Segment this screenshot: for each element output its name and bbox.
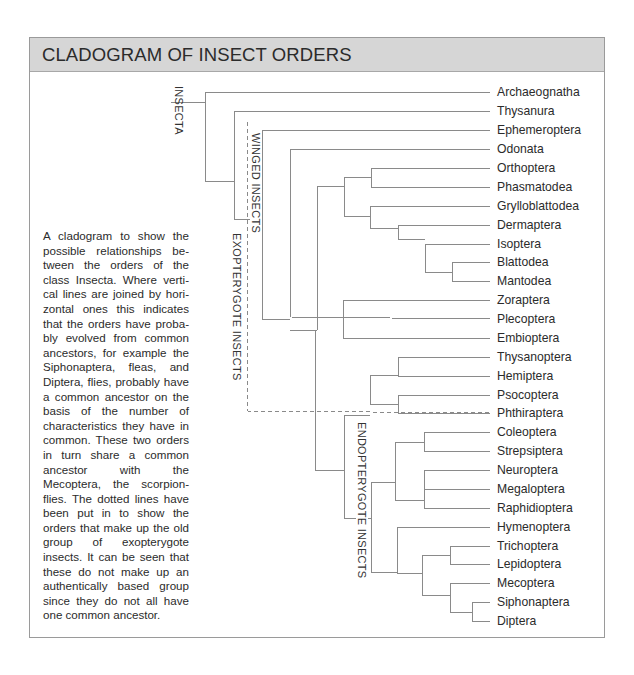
taxon-label: Odonata	[497, 142, 544, 156]
taxon-label: Mantodea	[497, 274, 551, 288]
taxon-label: Plecoptera	[497, 312, 555, 326]
taxon-label: Lepidoptera	[497, 557, 561, 571]
taxon-label: Isoptera	[497, 237, 541, 251]
taxon-label: Blattodea	[497, 255, 549, 269]
branch-line	[290, 317, 490, 319]
group-label-endopterygote-insects: ENDOPTERYGOTE INSECTS	[356, 422, 368, 578]
taxon-label: Siphonaptera	[497, 595, 570, 609]
taxon-label: Ephemeroptera	[497, 123, 581, 137]
taxon-label: Coleoptera	[497, 425, 557, 439]
taxon-label: Strepsiptera	[497, 444, 563, 458]
group-label-winged-insects: WINGED INSECTS	[250, 132, 262, 234]
taxon-label: Mecoptera	[497, 576, 555, 590]
taxon-label: Phasmatodea	[497, 180, 572, 194]
taxon-label: Orthoptera	[497, 161, 555, 175]
taxon-label: Raphidioptera	[497, 501, 573, 515]
group-label-exopterygote-insects: EXOPTERYGOTE INSECTS	[231, 233, 243, 381]
taxon-label: Embioptera	[497, 331, 559, 345]
taxon-label: Trichoptera	[497, 539, 558, 553]
taxon-label: Phthiraptera	[497, 406, 563, 420]
taxon-label: Hymenoptera	[497, 520, 570, 534]
taxon-label: Neuroptera	[497, 463, 558, 477]
taxon-label: Zoraptera	[497, 293, 550, 307]
taxon-label: Hemiptera	[497, 369, 553, 383]
group-label-insecta: INSECTA	[173, 86, 185, 135]
taxon-label: Thysanoptera	[497, 350, 572, 364]
taxon-label: Psocoptera	[497, 388, 559, 402]
taxon-label: Archaeognatha	[497, 85, 580, 99]
taxon-label: Megaloptera	[497, 482, 565, 496]
taxon-label: Diptera	[497, 614, 536, 628]
taxon-label: Grylloblattodea	[497, 199, 579, 213]
taxon-label: Dermaptera	[497, 218, 561, 232]
exopterygote-dotted-line	[247, 411, 490, 413]
taxon-label: Thysanura	[497, 104, 555, 118]
